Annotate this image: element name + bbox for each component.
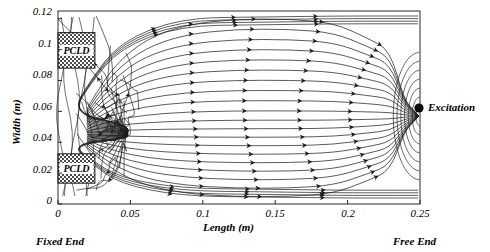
flow-arrow (189, 60, 194, 66)
flow-arrow (359, 152, 365, 158)
flow-arrow (188, 41, 193, 47)
x-axis-title: Length (m) (203, 221, 254, 233)
ytick-label-0.02: 0.02 (10, 163, 52, 175)
streamline (87, 29, 419, 134)
flow-arrow (189, 70, 194, 76)
flow-arrow (190, 80, 195, 85)
xtick-label-0.05: 0.05 (112, 207, 148, 219)
flow-arrow (369, 53, 376, 60)
ytick-label-0: 0 (10, 194, 52, 206)
flow-arrow (365, 60, 371, 67)
flow-arrow (376, 41, 383, 48)
streamline (87, 116, 419, 188)
streamline (79, 134, 418, 196)
xtick-label-0: 0 (40, 207, 76, 219)
pcld-patch-label-1: PCLD (63, 163, 89, 174)
excitation-point-marker (414, 103, 423, 112)
flow-arrow (363, 158, 369, 164)
ytick-label-0.1: 0.1 (10, 37, 52, 49)
ytick-label-0.12: 0.12 (10, 5, 52, 17)
streamline (87, 60, 419, 134)
streamline (76, 112, 109, 138)
xtick-label-0.25: 0.25 (402, 207, 438, 219)
flow-arrow (190, 90, 195, 95)
xtick-label-0.15: 0.15 (257, 207, 293, 219)
xtick-label-0.1: 0.1 (185, 207, 221, 219)
flow-arrow (369, 168, 376, 175)
flow-arrow (366, 163, 372, 170)
streamline (87, 116, 419, 134)
excitation-label: Excitation (428, 101, 475, 113)
flow-arrow (373, 173, 380, 180)
streamline (79, 134, 418, 193)
flow-arrow (361, 67, 367, 73)
streamline (87, 116, 419, 154)
streamline (87, 116, 419, 134)
streamline (87, 80, 419, 133)
flow-arrow (372, 47, 379, 54)
ytick-label-0.08: 0.08 (10, 68, 52, 80)
streamline-figure: PCLDPCLD 0.12 0.1 0.08 0.06 0.04 0.02 0 … (0, 0, 490, 252)
streamline (79, 16, 418, 134)
free-end-label: Free End (393, 235, 436, 247)
xtick-label-0.2: 0.2 (330, 207, 366, 219)
streamline (87, 70, 419, 134)
fixed-end-label: Fixed End (36, 235, 84, 247)
streamline-group (56, 14, 419, 200)
flow-arrow (189, 51, 194, 57)
pcld-patch-label-0: PCLD (63, 45, 89, 56)
flow-arrow (357, 75, 363, 81)
y-axis-title: Width (m) (10, 99, 22, 145)
flow-arrow (188, 31, 194, 37)
